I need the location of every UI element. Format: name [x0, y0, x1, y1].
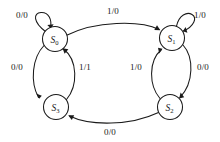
edge-label-s1-s2: 0/0 [197, 62, 209, 72]
edge-path-s0-s1 [67, 23, 159, 35]
state-node-s2[interactable]: S2 [158, 95, 183, 120]
edge-label-s0-s1: 1/0 [107, 6, 119, 16]
edge-s3-to-s0 [63, 48, 75, 99]
state-node-s3[interactable]: S3 [44, 95, 69, 120]
edge-s0-to-s1 [67, 23, 160, 35]
state-diagram-canvas: S0 S1 S2 S3 0/0 1/0 1/0 0/0 1/1 1/0 0/0 … [0, 0, 220, 142]
edge-s0-to-s3 [33, 46, 44, 99]
edge-label-s0-self: 0/0 [16, 10, 28, 20]
edge-path-s1-s2 [180, 45, 191, 98]
edge-label-s3-s0: 1/1 [79, 62, 91, 72]
edge-label-s0-s3: 0/0 [11, 62, 23, 72]
state-node-s0[interactable]: S0 [43, 27, 68, 52]
edge-path-s2-s3 [70, 113, 159, 124]
edge-s2-to-s1 [152, 48, 163, 99]
edge-path-s2-s1 [152, 50, 162, 99]
edge-path-s0-s3 [33, 46, 44, 98]
fsm-diagram: S0 S1 S2 S3 0/0 1/0 1/0 0/0 1/1 1/0 0/0 … [0, 0, 220, 142]
state-node-s1[interactable]: S1 [160, 26, 185, 51]
edge-s1-to-s2 [179, 45, 191, 98]
edge-label-s1-self: 1/0 [194, 10, 206, 20]
edge-s2-to-s3 [68, 113, 158, 124]
edge-label-s2-s3: 0/0 [104, 127, 116, 137]
edge-path-s3-s0 [64, 49, 75, 100]
arrow-head-s0-s3 [36, 94, 42, 99]
edge-label-s2-s1: 1/0 [130, 62, 142, 72]
